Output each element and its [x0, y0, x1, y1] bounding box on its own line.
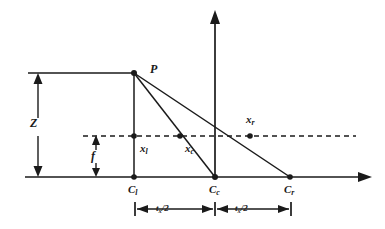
label-focal-f: f [91, 150, 95, 162]
label-baseline-left-tail: /2 [162, 203, 169, 213]
node-image-x-left [131, 133, 137, 139]
vertical-axis-arrowhead [210, 10, 220, 24]
label-baseline-right-tail: /2 [241, 203, 248, 213]
label-camera-left-subscript: l [135, 188, 137, 197]
label-baseline-right: tx/2 [235, 204, 248, 214]
node-camera-right [287, 174, 293, 180]
figure-container: P Z f xl xc xr Cl Cc Cr tx/2 tx/2 [0, 0, 385, 229]
label-image-x-left-subscript: l [146, 147, 148, 156]
vertical-axis [210, 10, 220, 177]
node-camera-center [212, 174, 218, 180]
label-image-x-center: xc [185, 143, 194, 156]
node-camera-left [131, 174, 137, 180]
label-baseline-left: tx/2 [156, 204, 169, 214]
node-image-x-right [247, 133, 253, 139]
label-camera-left: Cl [128, 184, 138, 197]
ray-p-to-right-camera [134, 73, 290, 177]
node-image-x-center [177, 133, 183, 139]
label-camera-center: Cc [209, 184, 220, 197]
label-depth-z: Z [30, 117, 37, 129]
label-camera-center-subscript: c [216, 188, 220, 197]
label-camera-right-subscript: r [291, 188, 294, 197]
label-image-x-left: xl [140, 143, 148, 156]
dimension-baseline-right [217, 202, 291, 216]
horizontal-axis-arrowhead [358, 172, 372, 182]
diagram-canvas [0, 0, 385, 229]
horizontal-axis [25, 172, 372, 182]
label-image-x-right: xr [246, 114, 255, 127]
label-image-x-center-subscript: c [191, 147, 195, 156]
label-camera-right: Cr [284, 184, 294, 197]
label-image-x-right-subscript: r [252, 118, 255, 127]
label-point-p: P [150, 63, 157, 75]
ray-p-to-center-camera [134, 73, 215, 177]
node-point-p [131, 70, 137, 76]
dimension-baseline-left [135, 202, 215, 216]
